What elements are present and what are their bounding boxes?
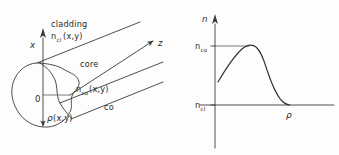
fibre-geometry-group: x z 0 cladding n cl (x,y) core n co (x,y…	[12, 19, 163, 127]
n-co-subscript: co	[201, 47, 208, 53]
figure-canvas: x z 0 cladding n cl (x,y) core n co (x,y…	[0, 0, 339, 155]
rho-label: ρ (x,y)	[47, 113, 73, 123]
cladding-index-subscript: cl	[57, 37, 62, 43]
co-label: co	[104, 102, 114, 112]
origin-label: 0	[35, 94, 41, 104]
rho-arguments: (x,y)	[53, 113, 73, 123]
n-cl-tick-label: n cl	[195, 100, 206, 112]
profile-rho-tick-label: ρ	[286, 110, 292, 120]
core-index-label: n co (x,y)	[76, 84, 109, 96]
index-profile-group: n n co n cl ρ	[195, 14, 334, 148]
x-axis-label: x	[29, 40, 36, 50]
cladding-bottom-edge	[71, 82, 163, 119]
cladding-index-label: n cl (x,y)	[51, 31, 83, 43]
profile-y-axis-label: n	[202, 14, 208, 24]
core-index-arguments: (x,y)	[89, 84, 109, 94]
core-label: core	[80, 59, 99, 69]
core-index-subscript: co	[82, 90, 89, 96]
x-axis-arrowhead-up	[40, 28, 46, 38]
profile-y-axis-arrowhead	[212, 14, 218, 24]
z-axis-label: z	[157, 38, 163, 48]
figure-svg: x z 0 cladding n cl (x,y) core n co (x,y…	[0, 0, 339, 155]
n-cl-subscript: cl	[201, 106, 206, 112]
index-profile-curve	[218, 45, 290, 105]
cladding-label: cladding	[51, 19, 87, 29]
cladding-index-arguments: (x,y)	[63, 31, 83, 41]
n-co-tick-label: n co	[195, 41, 208, 53]
